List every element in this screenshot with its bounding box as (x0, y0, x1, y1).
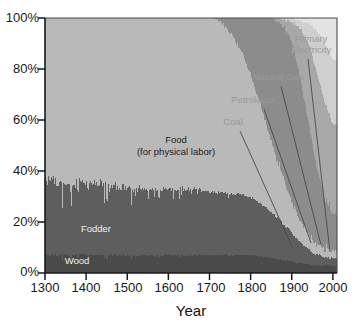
band-label-food-line2: (for physical labor) (137, 146, 215, 157)
y-tick-label-20: 20% (13, 214, 39, 229)
band-label-food-line1: Food (165, 134, 187, 145)
y-tick-label-100: 100% (6, 10, 40, 25)
chart-canvas: 100% 80% 60% 40% 20% 0% 1300 1400 1500 1… (0, 0, 359, 328)
x-tick-label-1600: 1600 (155, 280, 184, 295)
x-tick-label-1700: 1700 (197, 280, 226, 295)
energy-transition-stacked-area-chart: 100% 80% 60% 40% 20% 0% 1300 1400 1500 1… (0, 0, 359, 328)
y-tick-label-0: 0% (20, 264, 39, 279)
y-tick-label-60: 60% (13, 112, 39, 127)
callout-label-primary-electricity-line2: Electricity (291, 44, 332, 55)
callout-label-primary-electricity-line1: Primary (295, 33, 328, 44)
band-label-fodder: Fodder (81, 223, 111, 234)
x-tick-label-1300: 1300 (31, 280, 60, 295)
callout-label-petroleum: Petroleum (231, 94, 274, 105)
x-tick-label-1800: 1800 (238, 280, 267, 295)
x-tick-label-1500: 1500 (114, 280, 143, 295)
y-tick-label-80: 80% (13, 61, 39, 76)
callout-label-natural-gas: Natural Gas (253, 71, 304, 82)
y-tick-label-40: 40% (13, 163, 39, 178)
x-tick-label-1900: 1900 (280, 280, 309, 295)
band-label-wood: Wood (65, 255, 90, 266)
x-axis-title: Year (176, 302, 206, 319)
x-tick-label-1400: 1400 (72, 280, 101, 295)
x-tick-label-2000: 2000 (319, 280, 348, 295)
callout-label-coal: Coal (223, 116, 243, 127)
